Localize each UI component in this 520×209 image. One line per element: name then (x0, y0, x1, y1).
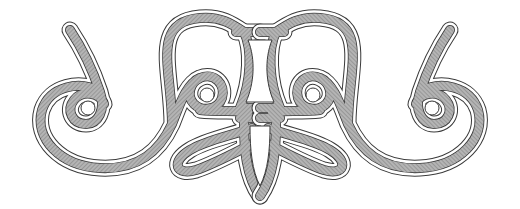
ornament-figure: Symmetrical scroll ornament with hatched… (0, 0, 520, 209)
ornament-svg (0, 0, 520, 209)
right-inner-eye (306, 88, 320, 102)
left-outer-eye (81, 101, 95, 115)
left-scroll (41, 18, 260, 196)
right-scroll (260, 18, 479, 196)
left-inner-eye (200, 88, 214, 102)
right-outer-eye (425, 101, 439, 115)
